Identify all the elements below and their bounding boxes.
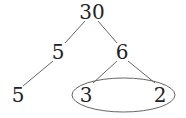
node-6: 6	[116, 42, 129, 62]
edge-30-5	[65, 21, 85, 43]
edge-30-6	[98, 21, 117, 43]
factor-tree-diagram: 30 5 6 5 3 2	[0, 0, 186, 118]
edge-6-2	[128, 61, 155, 83]
node-3: 3	[80, 85, 93, 105]
node-2: 2	[154, 85, 167, 105]
node-5-left: 5	[52, 42, 65, 62]
edge-6-3	[93, 61, 117, 83]
edge-5-5	[23, 61, 53, 86]
node-5-leaf: 5	[12, 85, 25, 105]
node-30: 30	[79, 2, 104, 22]
